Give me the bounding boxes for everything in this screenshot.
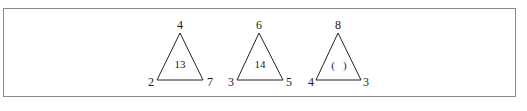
bottom-left-number: 4 <box>308 75 314 89</box>
triangle-shape <box>157 33 203 80</box>
triangle-2: 6 3 5 14 <box>228 18 292 89</box>
center-number: 13 <box>175 58 187 70</box>
triangle-shape <box>316 33 361 80</box>
triangle-shape <box>237 33 283 80</box>
top-number: 6 <box>256 18 262 32</box>
triangle-3: 8 4 3 ( ) <box>308 18 369 89</box>
bottom-left-number: 3 <box>228 75 234 89</box>
top-number: 8 <box>335 18 341 32</box>
top-number: 4 <box>177 18 183 32</box>
triangle-1: 4 2 7 13 <box>148 18 213 89</box>
bottom-left-number: 2 <box>148 75 154 89</box>
bottom-right-number: 3 <box>363 75 369 89</box>
triangle-puzzle: 4 2 7 13 6 3 5 14 8 4 3 ( ) <box>0 0 527 111</box>
bottom-right-number: 7 <box>207 75 213 89</box>
center-number: 14 <box>255 58 267 70</box>
bottom-right-number: 5 <box>286 75 292 89</box>
unknown-answer-blank: ( ) <box>331 59 347 72</box>
